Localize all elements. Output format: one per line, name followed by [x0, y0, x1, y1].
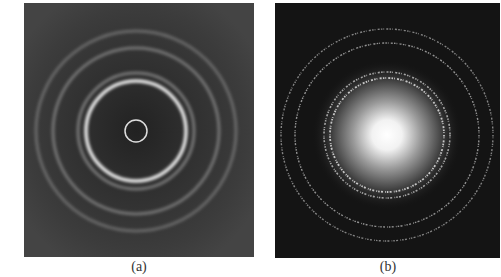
ring-pattern-a [24, 3, 254, 257]
caption-a: (a) [119, 259, 159, 275]
ring-pattern-b [275, 3, 500, 258]
diffraction-image-b [275, 3, 500, 258]
diffraction-image-a [24, 3, 254, 257]
caption-b: (b) [368, 259, 408, 275]
